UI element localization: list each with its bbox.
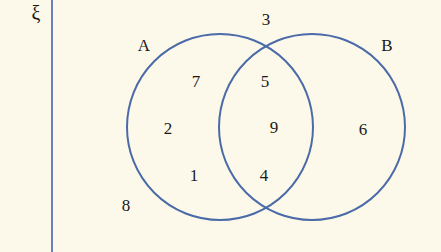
set-a-label: A bbox=[138, 37, 150, 54]
element-9-intersection: 9 bbox=[270, 119, 279, 136]
element-5-intersection: 5 bbox=[261, 73, 270, 90]
set-b-label: B bbox=[381, 37, 392, 54]
element-2-a-only: 2 bbox=[164, 120, 173, 137]
element-8-outside: 8 bbox=[122, 197, 131, 214]
element-6-b-only: 6 bbox=[359, 121, 368, 138]
venn-diagram: ξ A B 3 7 2 1 5 9 4 6 8 bbox=[0, 0, 441, 252]
element-4-intersection: 4 bbox=[260, 167, 269, 184]
universal-set-symbol: ξ bbox=[32, 3, 41, 23]
element-7-a-only: 7 bbox=[192, 73, 201, 90]
element-3-outside: 3 bbox=[262, 11, 271, 28]
element-1-a-only: 1 bbox=[190, 167, 199, 184]
venn-canvas bbox=[0, 0, 441, 252]
